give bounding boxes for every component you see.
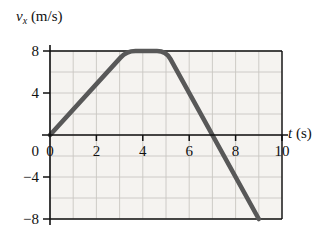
y-axis-units: (m/s) xyxy=(31,8,63,24)
y-axis-tick-labels: −8−4048 xyxy=(23,43,39,227)
velocity-time-figure: 0246810 −8−4048 vx (m/s) t (s) xyxy=(0,0,333,247)
svg-text:8: 8 xyxy=(32,43,40,59)
velocity-time-chart: 0246810 −8−4048 xyxy=(0,0,333,247)
x-axis-title: t (s) xyxy=(288,126,312,141)
svg-text:8: 8 xyxy=(232,143,240,159)
svg-text:6: 6 xyxy=(185,143,193,159)
x-axis-units: (s) xyxy=(296,125,312,141)
svg-text:0: 0 xyxy=(46,143,54,159)
svg-text:2: 2 xyxy=(93,143,101,159)
y-axis-title: vx (m/s) xyxy=(16,9,63,26)
y-axis-symbol: v xyxy=(16,8,23,24)
svg-text:4: 4 xyxy=(139,143,147,159)
svg-text:−8: −8 xyxy=(23,211,39,227)
y-axis-subscript: x xyxy=(23,15,27,26)
svg-text:0: 0 xyxy=(32,143,40,159)
svg-text:10: 10 xyxy=(275,143,290,159)
svg-text:−4: −4 xyxy=(23,169,39,185)
svg-text:4: 4 xyxy=(32,85,40,101)
x-axis-symbol: t xyxy=(288,125,292,141)
